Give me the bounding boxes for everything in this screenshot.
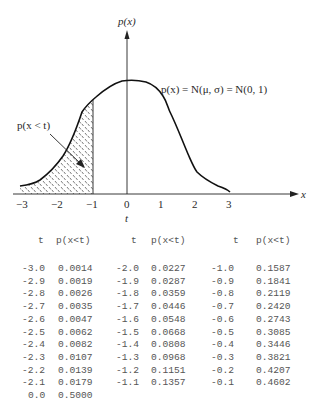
x-tick: −2 xyxy=(51,198,63,210)
probability-value: 0.3821 xyxy=(256,352,291,363)
t-value: -1.3 xyxy=(116,352,139,363)
probability-value: 0.1587 xyxy=(256,263,291,274)
x-tick: −1 xyxy=(86,198,98,210)
t-value: 0.0 xyxy=(28,390,45,401)
probability-value: 0.0968 xyxy=(151,352,186,363)
probability-value: 0.0446 xyxy=(151,301,186,312)
header-t: t xyxy=(131,235,137,246)
t-value: -0.2 xyxy=(211,365,234,376)
y-axis-label: p(x) xyxy=(117,15,136,28)
probability-value: 0.0668 xyxy=(151,327,186,338)
probability-value: 0.0808 xyxy=(151,339,186,350)
probability-value: 0.0082 xyxy=(58,339,93,350)
t-value: -2.4 xyxy=(22,339,45,350)
x-tick: 1 xyxy=(158,198,164,210)
probability-value: 0.0548 xyxy=(151,314,186,325)
probability-value: 0.4207 xyxy=(256,365,291,376)
probability-value: 0.0014 xyxy=(58,263,93,274)
probability-value: 0.3446 xyxy=(256,339,291,350)
x-axis-arrow-icon xyxy=(290,191,299,197)
x-tick: −3 xyxy=(16,198,28,210)
probability-value: 0.2420 xyxy=(256,301,291,312)
t-value: -3.0 xyxy=(22,263,45,274)
probability-value: 0.2743 xyxy=(256,314,291,325)
t-value: -0.3 xyxy=(211,352,234,363)
x-tick: 2 xyxy=(192,198,198,210)
t-value: -0.6 xyxy=(211,314,234,325)
probability-value: 0.0139 xyxy=(58,365,93,376)
x-tick: 3 xyxy=(226,198,232,210)
t-value: -2.8 xyxy=(22,288,45,299)
t-value: -1.6 xyxy=(116,314,139,325)
probability-value: 0.0047 xyxy=(58,314,93,325)
header-p: p(x<t) xyxy=(56,235,91,246)
t-value: -2.5 xyxy=(22,327,45,338)
t-value: -1.9 xyxy=(116,276,139,287)
probability-value: 0.1841 xyxy=(256,276,291,287)
header-p: p(x<t) xyxy=(256,235,291,246)
probability-value: 0.4602 xyxy=(256,377,291,388)
probability-value: 0.0287 xyxy=(151,276,186,287)
curve-label: p(x) = N(μ, σ) = N(0, 1) xyxy=(161,83,267,96)
t-value: -0.5 xyxy=(211,327,234,338)
probability-value: 0.0359 xyxy=(151,288,186,299)
t-value: -0.8 xyxy=(211,288,234,299)
probability-value: 0.0062 xyxy=(58,327,93,338)
probability-value: 0.3085 xyxy=(256,327,291,338)
t-value: -2.2 xyxy=(22,365,45,376)
t-value: -2.7 xyxy=(22,301,45,312)
t-value: -1.8 xyxy=(116,288,139,299)
probability-value: 0.0107 xyxy=(58,352,93,363)
x-tick: 0 xyxy=(124,198,130,210)
probability-value: 0.0026 xyxy=(58,288,93,299)
x-axis-label: x xyxy=(300,188,306,200)
t-value: -0.1 xyxy=(211,377,234,388)
table-header-row: t p(x<t) t p(x<t) t p(x<t) xyxy=(0,235,315,247)
probability-value: 0.1357 xyxy=(151,377,186,388)
t-value: -2.0 xyxy=(116,263,139,274)
t-value: -0.9 xyxy=(211,276,234,287)
header-t: t xyxy=(233,235,239,246)
shaded-label: p(x < t) xyxy=(17,119,50,132)
t-value: -1.1 xyxy=(116,377,139,388)
t-value: -0.7 xyxy=(211,301,234,312)
t-value: -1.2 xyxy=(116,365,139,376)
t-value: -1.5 xyxy=(116,327,139,338)
t-value: -2.6 xyxy=(22,314,45,325)
t-value: -2.1 xyxy=(22,377,45,388)
probability-value: 0.0227 xyxy=(151,263,186,274)
probability-value: 0.0019 xyxy=(58,276,93,287)
t-value: -1.0 xyxy=(211,263,234,274)
probability-value: 0.0035 xyxy=(58,301,93,312)
t-value: -2.9 xyxy=(22,276,45,287)
header-t: t xyxy=(38,235,44,246)
header-p: p(x<t) xyxy=(151,235,186,246)
probability-value: 0.5000 xyxy=(58,390,93,401)
probability-value: 0.1151 xyxy=(151,365,186,376)
t-value: -1.4 xyxy=(116,339,139,350)
probability-value: 0.0179 xyxy=(58,377,93,388)
y-axis-arrow-icon xyxy=(125,30,130,39)
t-value: -0.4 xyxy=(211,339,234,350)
t-value: -2.3 xyxy=(22,352,45,363)
t-marker-label: t xyxy=(125,212,129,224)
normal-distribution-chart: x p(x) p(x) = N(μ, σ) = N(0, 1) p(x < t)… xyxy=(0,0,315,230)
t-value: -1.7 xyxy=(116,301,139,312)
probability-value: 0.2119 xyxy=(256,288,291,299)
